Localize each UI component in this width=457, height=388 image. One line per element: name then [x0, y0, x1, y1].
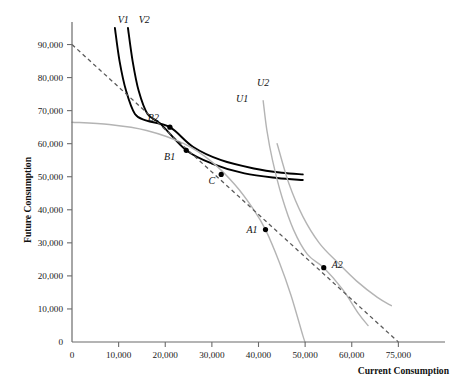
ticklabel-layer: 010,00020,00030,00040,00050,00060,00070,… — [38, 40, 412, 360]
y-tick-label: 80,000 — [38, 73, 64, 83]
x-tick-label: 75,000 — [386, 350, 412, 360]
y-axis-title: Future Consumption — [22, 156, 33, 243]
curve-u1 — [72, 122, 305, 342]
y-tick-label: 10,000 — [38, 304, 64, 314]
data-point-b2 — [167, 125, 172, 130]
point-label-a2: A2 — [331, 259, 343, 270]
x-tick-label: 10,000 — [106, 350, 132, 360]
intertemporal-consumption-chart: 010,00020,00030,00040,00050,00060,00070,… — [0, 0, 457, 388]
point-label-b2: B2 — [148, 112, 159, 123]
y-tick-label: 20,000 — [38, 271, 64, 281]
curve-label-v1: V1 — [118, 14, 129, 25]
point-label-c: C — [209, 175, 216, 186]
curve-label-u1: U1 — [236, 93, 248, 104]
data-point-a1 — [263, 227, 268, 232]
y-tick-label: 90,000 — [38, 40, 64, 50]
x-tick-label: 60,000 — [339, 350, 365, 360]
tick-layer — [67, 45, 398, 347]
x-tick-label: 0 — [70, 350, 75, 360]
y-tick-label: 60,000 — [38, 139, 64, 149]
axis-title-layer: Current Consumption Future Consumption — [22, 156, 450, 376]
y-tick-label: 70,000 — [38, 106, 64, 116]
curve-u2-outer — [277, 144, 391, 306]
x-tick-label: 20,000 — [153, 350, 179, 360]
y-tick-label: 40,000 — [38, 205, 64, 215]
curve-u2 — [263, 101, 368, 326]
point-layer: B2B1CA1A2 — [148, 112, 343, 270]
point-label-a1: A1 — [245, 224, 257, 235]
budget-line-layer — [72, 45, 398, 342]
curve-budget-line — [72, 45, 398, 342]
data-point-a2 — [321, 265, 326, 270]
data-point-b1 — [184, 148, 189, 153]
curve-layer — [72, 28, 391, 342]
y-tick-label: 30,000 — [38, 238, 64, 248]
curve-label-v2: V2 — [139, 14, 150, 25]
chart-svg: 010,00020,00030,00040,00050,00060,00070,… — [0, 0, 457, 388]
y-tick-label: 50,000 — [38, 172, 64, 182]
curve-v1 — [115, 28, 303, 174]
x-tick-label: 50,000 — [292, 350, 318, 360]
curve-label-layer: V1V2U1U2 — [118, 14, 270, 104]
x-tick-label: 30,000 — [199, 350, 225, 360]
x-tick-label: 40,000 — [246, 350, 272, 360]
point-label-b1: B1 — [164, 151, 175, 162]
data-point-c — [219, 172, 224, 177]
curve-label-u2: U2 — [257, 77, 269, 88]
x-axis-title: Current Consumption — [358, 365, 450, 376]
axis-layer — [72, 22, 445, 342]
y-tick-label: 0 — [58, 337, 63, 347]
